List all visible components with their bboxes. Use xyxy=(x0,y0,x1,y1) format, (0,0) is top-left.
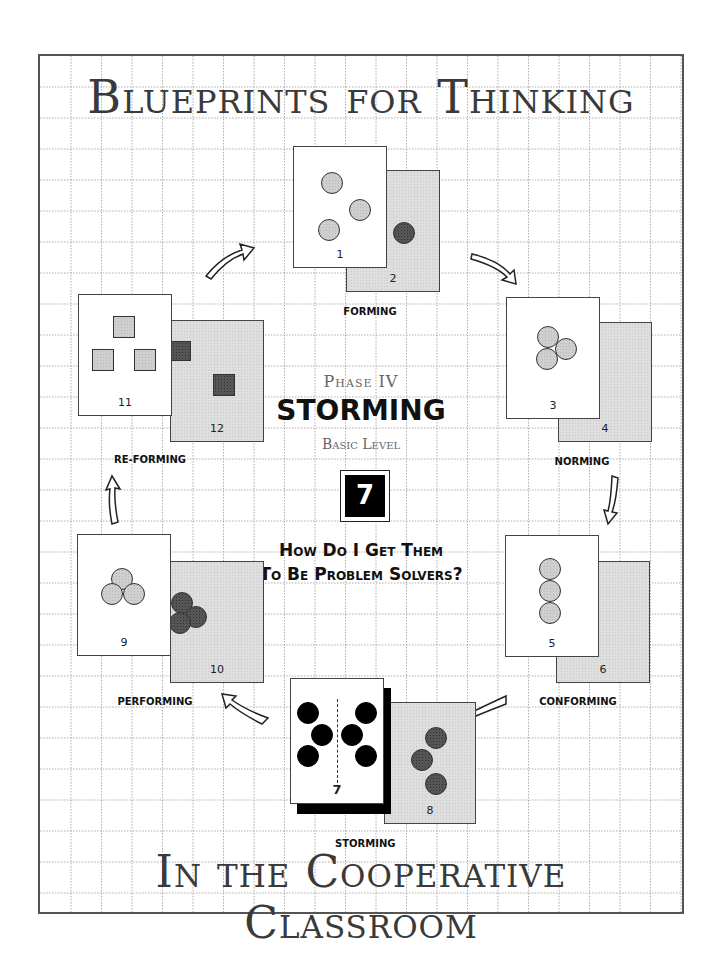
shape-light-circle xyxy=(123,583,145,605)
card-5: 5 xyxy=(505,535,599,657)
shape-black-circle xyxy=(297,702,319,724)
card-number: 11 xyxy=(79,396,171,409)
shape-dark-square xyxy=(213,374,235,396)
shape-light-circle xyxy=(101,583,123,605)
card-11: 11 xyxy=(78,294,172,416)
card-number: 9 xyxy=(78,636,170,649)
shape-light-circle xyxy=(536,348,558,370)
stage-label-performing: PERFORMING xyxy=(115,696,195,707)
divider-line xyxy=(337,699,338,783)
shape-light-square xyxy=(92,349,114,371)
card-number: 5 xyxy=(506,637,598,650)
card-number: 2 xyxy=(347,272,439,285)
shape-light-square xyxy=(113,316,135,338)
shape-light-circle xyxy=(349,199,371,221)
shape-light-square xyxy=(134,349,156,371)
shape-light-circle xyxy=(539,602,561,624)
chapter-badge: 7 xyxy=(340,470,390,522)
card-1: 1 xyxy=(293,146,387,268)
page-frame: Blueprints for Thinking 2 1 FORMING 4 3 … xyxy=(38,54,684,914)
arrow-reforming-to-forming-icon xyxy=(200,232,260,282)
shape-light-circle xyxy=(318,219,340,241)
shape-dark-square xyxy=(171,341,191,361)
card-number: 3 xyxy=(507,399,599,412)
arrow-forming-to-norming-icon xyxy=(468,246,528,290)
shape-black-circle xyxy=(355,745,377,767)
stage-label-forming: FORMING xyxy=(340,306,400,317)
card-number: 4 xyxy=(559,422,651,435)
shape-black-circle xyxy=(297,745,319,767)
card-number: 1 xyxy=(294,248,386,261)
card-number: 6 xyxy=(557,663,649,676)
shape-dark-circle xyxy=(425,773,447,795)
arrow-norming-to-conforming-icon xyxy=(594,472,624,528)
arrow-storming-to-performing-icon xyxy=(212,686,272,730)
stage-label-norming: NORMING xyxy=(552,456,612,467)
shape-dark-circle xyxy=(169,612,191,634)
card-number: 8 xyxy=(385,804,475,817)
card-9: 9 xyxy=(77,534,171,656)
shape-light-circle xyxy=(321,172,343,194)
card-number: 10 xyxy=(171,663,263,676)
shape-light-circle xyxy=(555,338,577,360)
card-7: 7 xyxy=(290,678,384,804)
arrow-performing-to-reforming-icon xyxy=(98,470,128,530)
card-8: 8 xyxy=(384,702,476,824)
shape-black-circle xyxy=(355,702,377,724)
card-3: 3 xyxy=(506,297,600,419)
shape-black-circle xyxy=(311,724,333,746)
shape-black-circle xyxy=(341,724,363,746)
stage-label-conforming: CONFORMING xyxy=(538,696,618,707)
shape-light-circle xyxy=(539,580,561,602)
shape-dark-circle xyxy=(411,749,433,771)
shape-light-circle xyxy=(539,558,561,580)
card-number: 12 xyxy=(171,422,263,435)
page-title: Blueprints for Thinking xyxy=(40,70,682,124)
chapter-number: 7 xyxy=(345,475,385,517)
shape-dark-circle xyxy=(393,222,415,244)
page-subtitle: In the Cooperative Classroom xyxy=(40,846,682,948)
card-number: 7 xyxy=(291,782,383,797)
shape-dark-circle xyxy=(425,727,447,749)
card-10: 10 xyxy=(170,561,264,683)
card-12: 12 xyxy=(170,320,264,442)
stage-label-re-forming: RE-FORMING xyxy=(110,454,190,465)
